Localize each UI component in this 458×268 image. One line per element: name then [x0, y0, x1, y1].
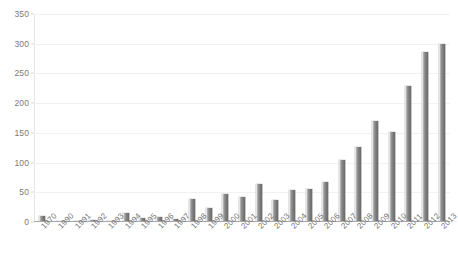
bar[interactable] — [338, 159, 345, 222]
bar-slot — [334, 14, 351, 222]
bar-slot — [134, 14, 151, 222]
bar-slot — [184, 14, 201, 222]
bar-slot — [433, 14, 450, 222]
bar-slot — [84, 14, 101, 222]
bar[interactable] — [388, 131, 395, 222]
bar[interactable] — [422, 51, 429, 222]
y-axis-tick-label: 0 — [24, 218, 29, 227]
bar-slot — [350, 14, 367, 222]
bar-slot — [200, 14, 217, 222]
y-axis-tick-label: 50 — [19, 188, 29, 197]
bar-slot — [417, 14, 434, 222]
bar-slot — [167, 14, 184, 222]
y-axis-tick-label: 100 — [15, 158, 29, 167]
bar-slot — [250, 14, 267, 222]
bar[interactable] — [405, 85, 412, 222]
y-axis-tick-label: 150 — [15, 129, 29, 138]
y-axis: 050100150200250300350 — [0, 0, 34, 268]
x-axis: 1970199019911992199319941995199619971998… — [34, 222, 450, 268]
y-axis-tick-label: 350 — [15, 10, 29, 19]
bar[interactable] — [438, 43, 445, 222]
bar-slot — [234, 14, 251, 222]
bar[interactable] — [355, 146, 362, 222]
bar[interactable] — [372, 120, 379, 222]
bar-slot — [267, 14, 284, 222]
bar-slot — [300, 14, 317, 222]
bar-slot — [367, 14, 384, 222]
bar-slot — [51, 14, 68, 222]
bar-slot — [34, 14, 51, 222]
y-axis-tick-label: 200 — [15, 99, 29, 108]
bar-slot — [150, 14, 167, 222]
bar-series — [34, 14, 450, 222]
bar-slot — [101, 14, 118, 222]
bar-slot — [217, 14, 234, 222]
bar-slot — [400, 14, 417, 222]
plot-area — [34, 14, 450, 222]
bar-slot — [383, 14, 400, 222]
bar-slot — [284, 14, 301, 222]
bar-slot — [117, 14, 134, 222]
y-axis-tick-label: 250 — [15, 69, 29, 78]
bar-slot — [317, 14, 334, 222]
bar-slot — [67, 14, 84, 222]
y-axis-tick-label: 300 — [15, 39, 29, 48]
